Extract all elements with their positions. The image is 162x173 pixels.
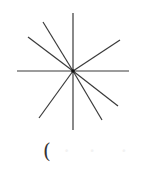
- line-upper-left-steep: [43, 22, 73, 71]
- caption-faint-text: · · ·: [51, 139, 127, 163]
- caption-open-paren: (: [43, 139, 51, 163]
- caption: ( · · ·: [43, 140, 127, 162]
- center-point: [71, 69, 75, 73]
- line-upper-right: [73, 40, 120, 71]
- line-lower-left: [39, 71, 73, 118]
- line-upper-left-shallow: [28, 37, 73, 71]
- line-lower-right-steep: [73, 71, 102, 120]
- line-lower-right-shallow: [73, 71, 118, 106]
